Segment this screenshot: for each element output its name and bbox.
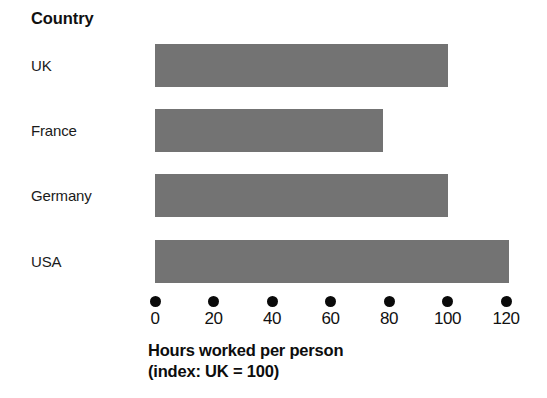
- tick-dot-icon: [267, 296, 278, 307]
- bar-chart: Country UKFranceGermanyUSA 0204060801001…: [0, 0, 547, 398]
- tick-dot-icon: [501, 296, 512, 307]
- tick-dot-icon: [384, 296, 395, 307]
- axis-title-line-1: Hours worked per person: [148, 341, 343, 359]
- tick-dot-icon: [325, 296, 336, 307]
- value-axis: 020406080100120: [0, 0, 547, 398]
- axis-title: Hours worked per person (index: UK = 100…: [148, 340, 343, 382]
- axis-title-line-2: (index: UK = 100): [148, 361, 343, 382]
- tick-label: 120: [466, 310, 546, 327]
- tick-dot-icon: [442, 296, 453, 307]
- tick-dot-icon: [150, 296, 161, 307]
- tick-dot-icon: [208, 296, 219, 307]
